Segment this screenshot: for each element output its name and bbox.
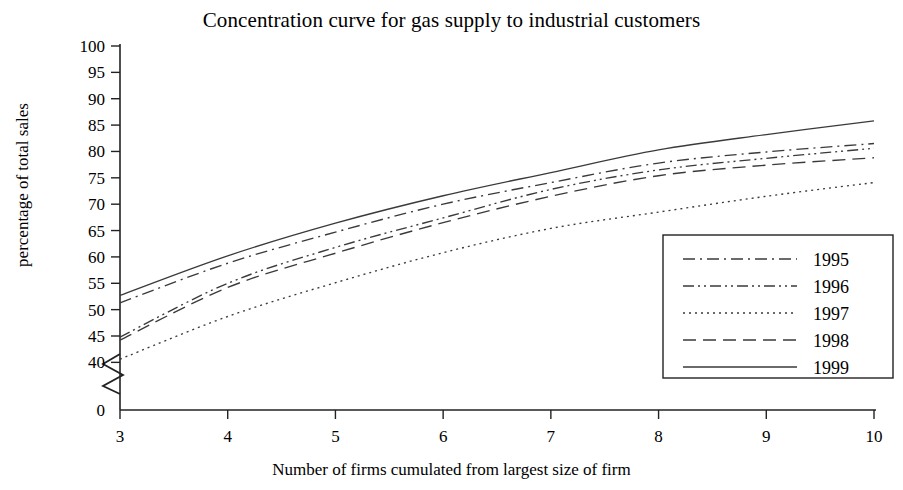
y-tick-label: 65 [88,222,105,241]
x-tick-label: 4 [223,427,232,446]
y-tick-label: 55 [88,274,105,293]
x-tick-label: 5 [331,427,340,446]
legend-label-1999[interactable]: 1999 [813,358,849,378]
legend-label-1997[interactable]: 1997 [813,304,849,324]
y-tick-label: 90 [88,90,105,109]
y-tick-label: 40 [88,353,105,372]
y-tick-label: 75 [88,169,105,188]
legend-label-1998[interactable]: 1998 [813,331,849,351]
x-tick-label: 3 [116,427,125,446]
x-tick-label: 7 [547,427,556,446]
y-tick-label: 85 [88,116,105,135]
x-tick-label: 9 [762,427,771,446]
y-tick-label: 70 [88,195,105,214]
y-tick-label: 50 [88,301,105,320]
x-tick-label: 8 [654,427,663,446]
legend-label-1995[interactable]: 1995 [813,250,849,270]
y-tick-label: 100 [80,37,106,56]
plot-area: 4045505560657075808590951000345678910199… [0,0,903,490]
y-tick-label-zero: 0 [97,401,106,420]
legend-box [663,235,893,378]
x-tick-label: 6 [439,427,448,446]
y-tick-label: 80 [88,142,105,161]
legend-label-1996[interactable]: 1996 [813,277,849,297]
y-tick-label: 45 [88,327,105,346]
x-tick-label: 10 [866,427,883,446]
y-tick-label: 95 [88,63,105,82]
y-tick-label: 60 [88,248,105,267]
concentration-curve-chart: Concentration curve for gas supply to in… [0,0,903,490]
